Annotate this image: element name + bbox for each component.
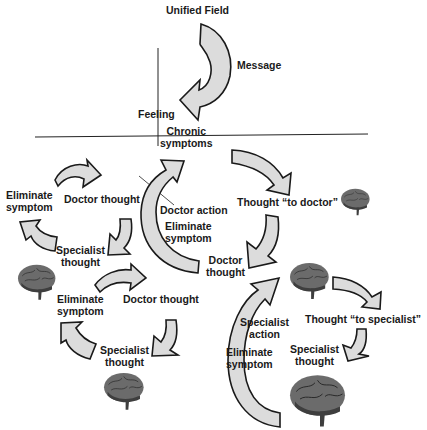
eliminate-center-line-1: Eliminate [165, 220, 212, 232]
arrow-to-doctor-thought-1 [55, 160, 101, 187]
arrow-to-specialist-thought-2 [152, 320, 178, 356]
eliminate-symptom-label-1: Eliminate symptom [6, 189, 53, 213]
specialist-2-line-2: thought [100, 356, 149, 368]
eliminate-center-line-2: symptom [165, 232, 212, 244]
doctor-thought-center-line-1: Doctor [206, 254, 245, 266]
arrow-to-doctor-thought-center [247, 215, 279, 268]
message-label: Message [237, 59, 281, 71]
arrow-to-eliminate-2 [61, 322, 96, 359]
specialist-1-line-1: Specialist [56, 244, 105, 256]
specialist-1-line-2: thought [56, 256, 105, 268]
specialist-thought-label-right: Specialist thought [290, 343, 339, 367]
specialist-2-line-1: Specialist [100, 344, 149, 356]
unified-field-label: Unified Field [166, 4, 229, 16]
doctor-thought-label-1: Doctor thought [64, 193, 140, 205]
eliminate-symptom-label-center: Eliminate symptom [165, 220, 212, 244]
message-arrow [180, 24, 231, 120]
arrow-to-specialist-thought-1 [108, 219, 132, 255]
arrow-to-eliminate-1 [20, 220, 57, 251]
doctor-thought-center-line-2: thought [206, 266, 245, 278]
doctor-action-arrow [141, 160, 199, 273]
arrow-to-thought-to-specialist [333, 277, 381, 309]
specialist-action-line-1: Specialist [240, 316, 289, 328]
eliminate-2-line-2: symptom [57, 305, 104, 317]
arrow-to-doctor-thought-2 [95, 264, 146, 292]
specialist-action-label: Specialist action [240, 316, 289, 340]
arrow-to-specialist-thought-right [343, 329, 369, 361]
specialist-thought-label-1: Specialist thought [56, 244, 105, 268]
eliminate-1-line-1: Eliminate [6, 189, 53, 201]
specialist-thought-label-2: Specialist thought [100, 344, 149, 368]
eliminate-2-line-1: Eliminate [57, 293, 104, 305]
eliminate-right-line-2: symptom [226, 358, 273, 370]
thought-to-doctor-label: Thought “to doctor” [237, 196, 338, 208]
doctor-thought-label-2: Doctor thought [123, 293, 199, 305]
specialist-action-line-2: action [240, 328, 289, 340]
diagram-canvas: Unified Field Message Feeling Chronic sy… [0, 0, 427, 430]
brain-icon-specialist-top [290, 263, 329, 299]
specialist-right-line-1: Specialist [290, 343, 339, 355]
thought-to-specialist-label: Thought “to specialist” [305, 313, 421, 325]
feeling-label: Feeling [138, 108, 175, 120]
arrow-to-thought-to-doctor [232, 150, 291, 195]
eliminate-right-line-1: Eliminate [226, 346, 273, 358]
brain-icon-left-2 [104, 373, 144, 410]
chronic-line-2: symptoms [160, 137, 213, 149]
eliminate-symptom-label-2: Eliminate symptom [57, 293, 104, 317]
doctor-action-label: Doctor action [160, 204, 228, 216]
chronic-line-1: Chronic [160, 125, 213, 137]
specialist-right-line-2: thought [290, 355, 339, 367]
chronic-symptoms-label: Chronic symptoms [160, 125, 213, 149]
eliminate-1-line-2: symptom [6, 201, 53, 213]
brain-icon-specialist-large [290, 375, 345, 426]
doctor-thought-label-center: Doctor thought [206, 254, 245, 278]
eliminate-symptom-label-right: Eliminate symptom [226, 346, 273, 370]
brain-icon-left-1 [18, 265, 55, 300]
brain-icon-doctor [341, 189, 370, 216]
